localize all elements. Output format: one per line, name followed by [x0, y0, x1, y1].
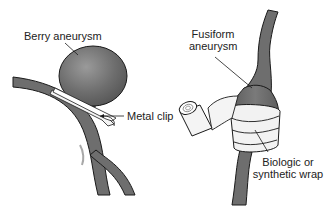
aneurysm-treatment-diagram: Berry aneurysm Metal clip Fusiform aneur… [0, 0, 325, 218]
left-panel [13, 43, 135, 195]
label-fusiform-line2: aneurysm [189, 40, 237, 52]
label-fusiform-line1: Fusiform [189, 28, 237, 40]
wrap-roll [177, 99, 212, 136]
label-berry-aneurysm: Berry aneurysm [24, 30, 102, 42]
label-metal-clip: Metal clip [127, 110, 173, 122]
label-wrap-line1: Biologic or [256, 156, 320, 168]
lower-vessel [232, 150, 252, 205]
label-wrap-line2: synthetic wrap [252, 168, 324, 180]
